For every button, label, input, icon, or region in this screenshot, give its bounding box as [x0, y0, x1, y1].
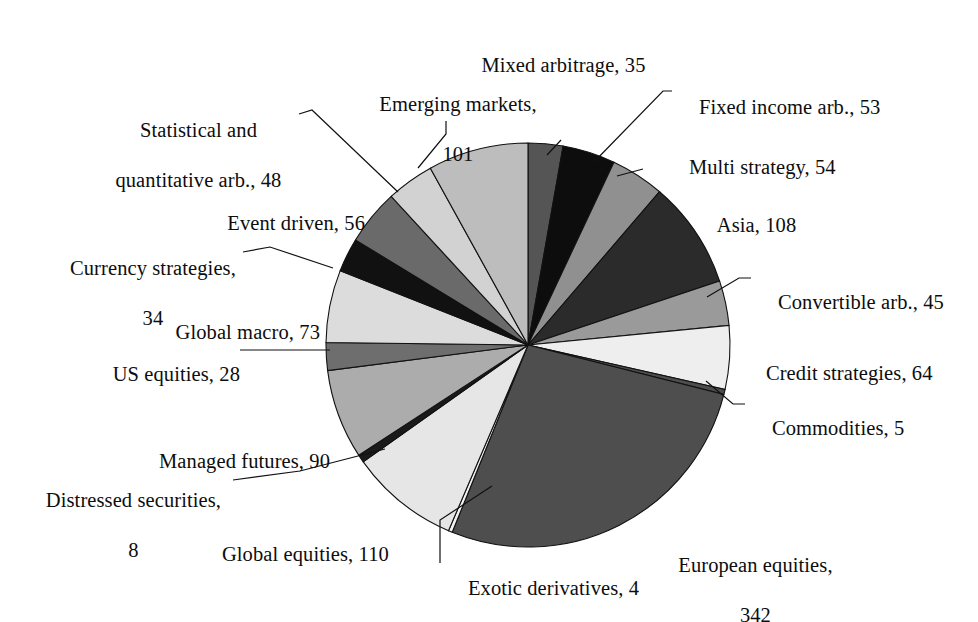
slice-label-multi-strategy-text: Multi strategy, 54: [689, 156, 836, 178]
slice-label-exotic-derivatives: Exotic derivatives, 4: [447, 551, 747, 622]
slice-label-statistical-arb-line1: Statistical and: [140, 119, 257, 141]
slice-label-convertible-arb-text: Convertible arb., 45: [778, 291, 944, 313]
slice-label-convertible-arb: Convertible arb., 45: [757, 265, 978, 340]
slice-label-asia-text: Asia, 108: [717, 214, 796, 236]
slice-label-global-equities-text: Global equities, 110: [222, 543, 389, 565]
slice-label-managed-futures-text: Managed futures, 90: [159, 450, 330, 472]
slice-label-emerging-markets-line1: Emerging markets,: [379, 93, 536, 115]
slice-label-distressed-securities-line2: 8: [128, 539, 138, 561]
slice-label-statistical-arb: Statistical and quantitative arb., 48: [68, 93, 308, 218]
slice-label-credit-strategies-text: Credit strategies, 64: [766, 362, 933, 384]
slice-label-managed-futures: Managed futures, 90: [20, 424, 330, 499]
slice-label-commodities: Commodities, 5: [751, 391, 978, 466]
slice-label-asia: Asia, 108: [697, 188, 947, 263]
slice-label-statistical-arb-line2: quantitative arb., 48: [115, 169, 281, 191]
slice-label-emerging-markets-line2: 101: [442, 143, 473, 165]
pie-chart-figure: Mixed arbitrage, 35 Fixed income arb., 5…: [0, 0, 978, 622]
slice-label-exotic-derivatives-text: Exotic derivatives, 4: [468, 577, 639, 599]
slice-label-commodities-text: Commodities, 5: [772, 417, 904, 439]
slice-label-fixed-income-arb-text: Fixed income arb., 53: [699, 96, 880, 118]
slice-label-emerging-markets: Emerging markets, 101: [330, 67, 565, 192]
slice-label-currency-strategies-line2: 34: [143, 307, 164, 329]
slice-label-global-equities: Global equities, 110: [201, 517, 491, 592]
